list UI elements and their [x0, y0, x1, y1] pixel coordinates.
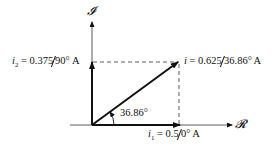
- i-label: i = 0.62536.86° A: [184, 56, 261, 67]
- i1-label: i1 = 0.50° A: [148, 129, 200, 142]
- real-axis-label: 𝓡: [235, 118, 246, 130]
- angle-arc: [110, 112, 114, 125]
- i2-label: i2 = 0.37590° A: [12, 56, 80, 69]
- imaginary-axis-label: 𝓘: [87, 5, 95, 17]
- angle-label: 36.86°: [120, 108, 148, 119]
